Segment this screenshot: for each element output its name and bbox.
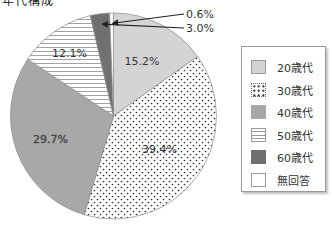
legend-label: 60歳代 [277,149,313,165]
legend-swatch-40s [251,105,266,119]
callout-label-1: 3.0% [186,22,214,35]
legend: 20歳代 30歳代 40歳代 50歳代 60歳代 無回答 [241,46,326,192]
legend-label: 40歳代 [277,104,313,120]
legend-swatch-30s [251,83,266,97]
legend-item-30s: 30歳代 [242,79,325,102]
legend-item-60s: 60歳代 [242,146,325,169]
legend-item-no-answer: 無回答 [242,169,325,192]
legend-item-50s: 50歳代 [242,124,325,147]
slice-label-1: 39.4% [142,143,177,156]
legend-label: 30歳代 [277,82,313,98]
slice-label-2: 29.7% [33,133,68,146]
legend-label: 無回答 [277,172,310,188]
slice-label-0: 15.2% [124,55,159,68]
legend-swatch-60s [251,150,266,164]
legend-item-40s: 40歳代 [242,101,325,124]
legend-label: 50歳代 [277,127,313,143]
legend-label: 20歳代 [277,59,313,75]
legend-item-20s: 20歳代 [242,56,325,79]
callout-label-0: 0.6% [186,8,214,21]
slice-label-3: 12.1% [52,47,87,60]
legend-swatch-20s [251,60,266,74]
legend-swatch-50s [251,128,266,142]
legend-swatch-no-answer [251,173,266,187]
